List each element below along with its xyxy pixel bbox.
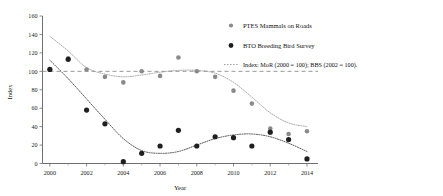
- y-axis-title: Index: [6, 84, 13, 100]
- legend-label-index: Index: MoR (2000 = 100); BBS (2002 = 100…: [243, 61, 358, 69]
- data-point: [194, 69, 199, 74]
- data-point: [158, 74, 163, 79]
- data-point: [305, 129, 310, 134]
- x-tick-label: 2006: [154, 170, 166, 176]
- x-tick-label: 2008: [191, 170, 203, 176]
- data-point: [213, 75, 218, 80]
- data-point: [268, 130, 273, 135]
- data-point: [66, 57, 71, 62]
- data-point: [139, 151, 144, 156]
- data-point: [286, 137, 291, 142]
- data-point: [194, 143, 199, 148]
- data-point: [84, 67, 89, 72]
- x-tick-label: 2010: [227, 170, 239, 176]
- trend-line-bto: [50, 60, 307, 153]
- data-point: [102, 121, 107, 126]
- data-point: [250, 101, 255, 106]
- y-tick-label: 100: [28, 69, 37, 75]
- chart-legend: PTES Mammals on Roads BTO Breeding Bird …: [224, 22, 358, 69]
- data-point: [103, 75, 108, 80]
- x-tick-label: 2002: [80, 170, 92, 176]
- x-tick-label: 2004: [117, 170, 129, 176]
- data-point: [121, 80, 126, 85]
- trend-line-ptes: [50, 36, 307, 126]
- x-tick-label: 2012: [264, 170, 276, 176]
- legend-marker-ptes-icon: [229, 23, 233, 27]
- data-point: [231, 88, 236, 93]
- data-point: [304, 156, 309, 161]
- data-point: [176, 128, 181, 133]
- chart-canvas: 020406080100120140160 200020022004200620…: [0, 0, 443, 196]
- legend-marker-bto-icon: [229, 43, 234, 48]
- data-point: [213, 134, 218, 139]
- y-tick-label: 0: [34, 161, 37, 167]
- y-tick-label: 80: [31, 87, 37, 93]
- data-point: [231, 135, 236, 140]
- axes-group: [43, 16, 319, 164]
- x-tick-label: 2000: [44, 170, 56, 176]
- data-point: [249, 143, 254, 148]
- data-point: [121, 159, 126, 164]
- y-tick-label: 140: [28, 32, 37, 38]
- y-tick-label: 160: [28, 13, 37, 19]
- data-points-bto: [47, 57, 309, 165]
- y-tick-label: 40: [31, 124, 37, 130]
- data-point: [176, 55, 181, 60]
- data-point: [157, 143, 162, 148]
- y-tick-label: 120: [28, 50, 37, 56]
- data-point: [139, 69, 144, 74]
- legend-label-bto: BTO Breeding Bird Survey: [243, 42, 315, 49]
- x-axis-title: Year: [174, 184, 187, 191]
- y-tick-label: 20: [31, 142, 37, 148]
- x-tick-label: 2014: [301, 170, 313, 176]
- chart-figure: 020406080100120140160 200020022004200620…: [0, 0, 443, 196]
- y-tick-group: 020406080100120140160: [28, 13, 42, 167]
- legend-label-ptes: PTES Mammals on Roads: [243, 22, 312, 29]
- data-point: [286, 132, 291, 137]
- data-point: [84, 107, 89, 112]
- data-point: [47, 67, 52, 72]
- y-tick-label: 60: [31, 105, 37, 111]
